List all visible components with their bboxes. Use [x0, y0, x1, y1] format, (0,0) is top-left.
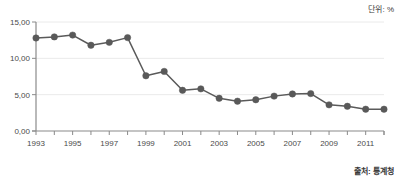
data-point-marker	[179, 87, 185, 93]
data-markers	[33, 32, 387, 113]
data-point-marker	[161, 68, 167, 74]
y-tick-label: 0,00	[14, 127, 30, 136]
x-tick-label: 2007	[284, 139, 302, 148]
x-tick-label: 2001	[174, 139, 192, 148]
x-axis-tick-labels: 1993199519971999200120032005200720092011	[27, 139, 375, 148]
x-tick-label: 1995	[64, 139, 82, 148]
y-tick-label: 15,00	[10, 18, 31, 27]
x-tick-label: 1999	[137, 139, 155, 148]
data-point-marker	[344, 103, 350, 109]
data-point-marker	[289, 91, 295, 97]
data-point-marker	[143, 73, 149, 79]
x-tick-label: 2009	[320, 139, 338, 148]
x-tick-label: 2005	[247, 139, 265, 148]
data-point-marker	[326, 102, 332, 108]
grid-lines	[36, 22, 384, 95]
data-point-marker	[69, 32, 75, 38]
y-axis-tick-labels: 15,0010,005,000,00	[10, 18, 31, 136]
data-point-marker	[88, 42, 94, 48]
data-point-marker	[124, 34, 130, 40]
axis-lines	[32, 22, 384, 131]
line-chart-plot: 15,0010,005,000,00 199319951997199920012…	[0, 0, 398, 180]
data-point-marker	[234, 98, 240, 104]
chart-container: 단위: % 15,0010,005,000,00 199319951997199…	[0, 0, 398, 180]
x-tick-marks	[36, 131, 384, 135]
data-point-marker	[271, 93, 277, 99]
y-tick-label: 10,00	[10, 54, 31, 63]
data-point-marker	[33, 35, 39, 41]
x-tick-label: 1997	[100, 139, 118, 148]
data-point-marker	[308, 90, 314, 96]
x-tick-label: 2011	[357, 139, 375, 148]
data-point-marker	[106, 39, 112, 45]
data-point-marker	[198, 86, 204, 92]
data-point-marker	[216, 95, 222, 101]
y-tick-label: 5,00	[14, 91, 30, 100]
x-tick-label: 2003	[210, 139, 228, 148]
x-tick-label: 1993	[27, 139, 45, 148]
data-point-marker	[51, 34, 57, 40]
source-label: 출처: 통계청	[354, 165, 394, 176]
data-point-marker	[381, 106, 387, 112]
data-point-marker	[362, 106, 368, 112]
data-point-marker	[253, 97, 259, 103]
